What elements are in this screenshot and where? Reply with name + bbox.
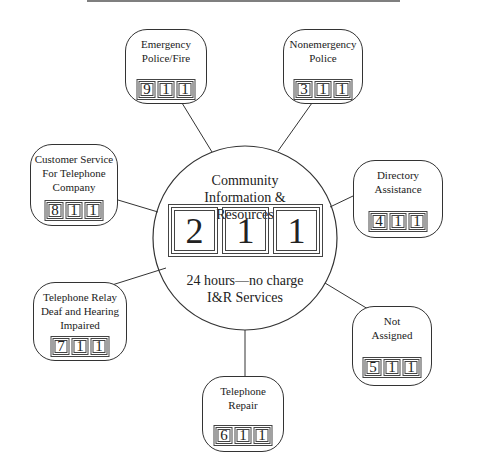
- digit: 6: [216, 427, 233, 444]
- digit: 1: [66, 202, 83, 219]
- connector-relay: [112, 268, 166, 285]
- service-label: Customer Service For Telephone Company: [31, 152, 117, 194]
- service-box-nonemergency: Nonemergency Police 3 1 1: [283, 29, 363, 104]
- service-number: 4 1 1: [369, 211, 428, 232]
- digit: 1: [409, 213, 426, 230]
- service-number: 5 1 1: [363, 357, 422, 378]
- service-number: 9 1 1: [137, 79, 196, 100]
- service-number: 7 1 1: [51, 336, 110, 357]
- digit: 7: [53, 338, 70, 355]
- digit: 3: [296, 81, 313, 98]
- digit: 1: [403, 359, 420, 376]
- service-label: Telephone Relay Deaf and Hearing Impaire…: [34, 290, 126, 332]
- digit: 1: [235, 427, 252, 444]
- digit: 1: [390, 213, 407, 230]
- service-box-repair: Telephone Repair 6 1 1: [202, 376, 284, 452]
- service-number: 6 1 1: [214, 425, 273, 446]
- digit: 1: [85, 202, 102, 219]
- connector-nonemergency: [278, 103, 312, 151]
- connector-customer-service: [118, 200, 158, 212]
- digit: 1: [315, 81, 332, 98]
- connector-directory: [330, 196, 353, 207]
- service-box-customer-service: Customer Service For Telephone Company 8…: [30, 144, 118, 226]
- service-label: Emergency Police/Fire: [126, 37, 206, 65]
- n11-diagram: Community Information & Resources 2 1 1 …: [0, 0, 483, 466]
- digit: 1: [384, 359, 401, 376]
- digit: 8: [47, 202, 64, 219]
- digit: 1: [177, 81, 194, 98]
- digit: 1: [72, 338, 89, 355]
- center-digit: 1: [222, 207, 269, 254]
- service-label: Directory Assistance: [354, 168, 442, 196]
- digit: 1: [158, 81, 175, 98]
- service-label: Nonemergency Police: [284, 37, 362, 65]
- center-number-211: 2 1 1: [168, 204, 323, 257]
- digit: 4: [371, 213, 388, 230]
- center-subtitle: 24 hours—no charge I&R Services: [165, 272, 325, 306]
- service-box-directory: Directory Assistance 4 1 1: [353, 160, 443, 238]
- digit: 1: [91, 338, 108, 355]
- digit: 1: [254, 427, 271, 444]
- digit: 5: [365, 359, 382, 376]
- service-box-not-assigned: Not Assigned 5 1 1: [352, 306, 432, 386]
- center-digit: 2: [171, 207, 218, 254]
- connector-not-assigned: [325, 283, 368, 309]
- service-number: 8 1 1: [45, 200, 104, 221]
- center-digit: 1: [273, 207, 320, 254]
- service-box-relay: Telephone Relay Deaf and Hearing Impaire…: [33, 282, 127, 361]
- connector-emergency: [182, 103, 212, 152]
- service-box-emergency: Emergency Police/Fire 9 1 1: [125, 29, 207, 104]
- digit: 1: [334, 81, 351, 98]
- service-number: 3 1 1: [294, 79, 353, 100]
- service-label: Telephone Repair: [203, 384, 283, 412]
- digit: 9: [139, 81, 156, 98]
- service-label: Not Assigned: [353, 314, 431, 342]
